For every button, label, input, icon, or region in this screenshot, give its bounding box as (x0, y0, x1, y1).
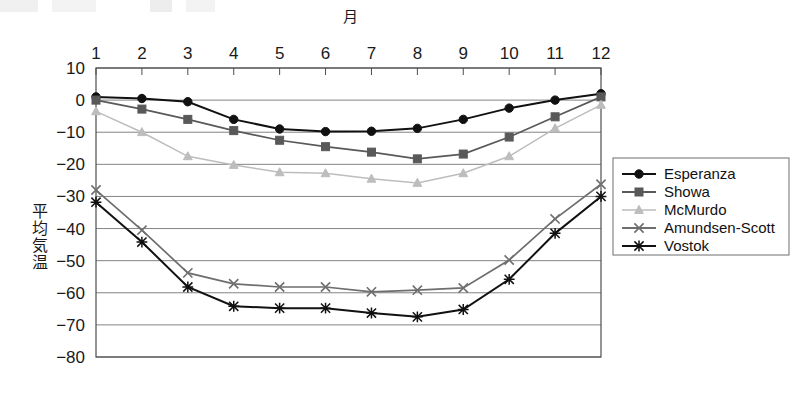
y-tick-label: −20 (56, 155, 85, 174)
series-line (96, 94, 601, 132)
data-point-square (184, 115, 192, 123)
data-point-square (276, 136, 284, 144)
y-tick-label: −80 (56, 348, 85, 367)
data-point-triangle (92, 107, 101, 115)
data-point-asterisk (412, 311, 423, 322)
data-point-circle (459, 115, 467, 123)
y-tick-label: −10 (56, 123, 85, 142)
x-tick-label: 4 (229, 44, 238, 63)
data-point-square (367, 148, 375, 156)
x-tick-label: 10 (500, 44, 519, 63)
x-tick-label: 7 (367, 44, 376, 63)
data-point-asterisk (366, 308, 377, 319)
data-point-cross (137, 226, 146, 235)
legend-label: Showa (664, 183, 711, 200)
data-point-circle (275, 125, 283, 133)
x-tick-label: 9 (459, 44, 468, 63)
data-point-square (459, 150, 467, 158)
data-point-asterisk (137, 237, 148, 248)
data-point-square (505, 133, 513, 141)
y-tick-label: −40 (56, 220, 85, 239)
x-tick-label: 11 (546, 44, 564, 63)
x-axis (96, 68, 601, 75)
data-point-square (322, 143, 330, 151)
data-point-circle (635, 170, 643, 178)
data-point-square (230, 127, 238, 135)
data-point-circle (551, 96, 559, 104)
y-tick-label: 0 (76, 91, 85, 110)
series-line (96, 196, 601, 316)
y-tick-label: −70 (56, 316, 85, 335)
gridlines (96, 68, 601, 357)
data-point-asterisk (91, 197, 102, 208)
data-point-circle (184, 98, 192, 106)
data-point-circle (413, 124, 421, 132)
data-point-asterisk (458, 304, 469, 315)
series-vostok (91, 191, 607, 322)
data-point-triangle (505, 152, 514, 160)
x-tick-label: 8 (413, 44, 422, 63)
data-point-triangle (183, 152, 192, 160)
legend-label: Esperanza (664, 165, 736, 182)
x-tick-label: 3 (183, 44, 192, 63)
temperature-line-chart: 100−10−20−30−40−50−60−70−801234567891011… (0, 0, 801, 395)
data-point-square (635, 188, 643, 196)
data-point-cross (550, 214, 559, 223)
y-tick-label: −50 (56, 252, 85, 271)
x-tick-label: 6 (321, 44, 330, 63)
series-amundsen-scott (91, 180, 605, 297)
cropped-header-artifact (0, 0, 230, 12)
data-point-asterisk (550, 228, 561, 239)
y-tick-label: 10 (66, 59, 85, 78)
data-point-asterisk (596, 191, 607, 202)
legend-label: Amundsen-Scott (664, 219, 776, 236)
y-axis-title: 平均気温 (30, 203, 48, 271)
data-point-asterisk (320, 303, 331, 314)
y-tick-label: −30 (56, 187, 85, 206)
data-point-circle (321, 127, 329, 135)
legend-label: Vostok (664, 237, 710, 254)
data-point-circle (505, 104, 513, 112)
x-tick-label: 1 (91, 44, 100, 63)
data-point-asterisk (182, 282, 193, 293)
data-point-cross (505, 255, 514, 264)
data-point-asterisk (504, 274, 515, 285)
data-point-asterisk (634, 241, 645, 252)
data-point-asterisk (228, 301, 239, 312)
x-axis-title: 月 (343, 8, 358, 25)
series-showa (92, 93, 605, 163)
data-point-square (92, 96, 100, 104)
data-point-asterisk (274, 303, 285, 314)
data-point-circle (367, 127, 375, 135)
legend-label: McMurdo (664, 201, 727, 218)
y-tick-label: −60 (56, 284, 85, 303)
series-line (96, 184, 601, 292)
plot-frame (96, 68, 601, 357)
data-point-square (138, 105, 146, 113)
data-point-circle (138, 94, 146, 102)
data-point-triangle (551, 124, 560, 132)
data-point-circle (230, 115, 238, 123)
x-tick-label: 2 (137, 44, 146, 63)
chart-canvas: 100−10−20−30−40−50−60−70−801234567891011… (0, 0, 801, 395)
data-point-square (413, 155, 421, 163)
data-point-triangle (597, 100, 606, 108)
data-point-square (551, 113, 559, 121)
x-tick-label: 5 (275, 44, 284, 63)
legend: EsperanzaShowaMcMurdoAmundsen-ScottVosto… (613, 158, 789, 255)
x-tick-label: 12 (592, 44, 611, 63)
series-mcmurdo (92, 100, 606, 186)
